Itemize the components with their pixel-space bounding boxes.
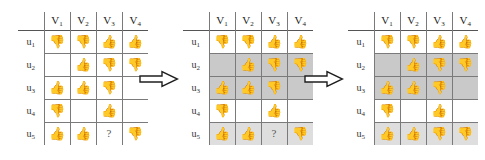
cell-u1-v1[interactable]: 👎 bbox=[209, 30, 235, 53]
thumbs-down-icon: 👎 bbox=[49, 35, 65, 48]
cell-u2-v1[interactable] bbox=[44, 53, 70, 76]
row-header-u1: u1 bbox=[18, 30, 44, 53]
cell-u5-v2[interactable]: 👍 bbox=[400, 122, 426, 145]
cell-u5-v1[interactable]: 👍 bbox=[209, 122, 235, 145]
table-row: u4👎👍 bbox=[18, 99, 148, 122]
cell-u5-v4[interactable]: 👎 bbox=[122, 122, 148, 145]
thumbs-down-icon: 👎 bbox=[75, 35, 91, 48]
cell-u4-v4[interactable] bbox=[122, 99, 148, 122]
header-row: V1V2V3V4 bbox=[18, 12, 148, 30]
cell-u4-v1[interactable]: 👎 bbox=[374, 99, 400, 122]
row-header-u5: u5 bbox=[348, 122, 374, 145]
cell-u3-v3[interactable]: 👎 bbox=[96, 76, 122, 99]
cell-u5-v1[interactable]: 👍 bbox=[374, 122, 400, 145]
cell-u4-v2[interactable] bbox=[70, 99, 96, 122]
table-row: u2👍👎👎 bbox=[348, 53, 478, 76]
thumbs-down-icon: 👎 bbox=[240, 35, 256, 48]
table-corner-cell bbox=[18, 12, 44, 30]
table-row: u3👍👍👎 bbox=[348, 76, 478, 99]
cell-u3-v1[interactable]: 👍 bbox=[209, 76, 235, 99]
thumbs-up-icon: 👍 bbox=[75, 81, 91, 94]
column-header-v1: V1 bbox=[374, 12, 400, 30]
cell-u4-v1[interactable]: 👎 bbox=[209, 99, 235, 122]
cell-u4-v2[interactable] bbox=[235, 99, 261, 122]
cell-u1-v3[interactable]: 👍 bbox=[96, 30, 122, 53]
row-header-u3: u3 bbox=[348, 76, 374, 99]
cell-u1-v4[interactable]: 👍 bbox=[452, 30, 478, 53]
column-header-v2: V2 bbox=[70, 12, 96, 30]
cell-u2-v1[interactable] bbox=[209, 53, 235, 76]
right-arrow-icon-2 bbox=[304, 70, 344, 88]
table-row: u3👍👍👎 bbox=[18, 76, 148, 99]
cell-u2-v1[interactable] bbox=[374, 53, 400, 76]
cell-u5-v3[interactable]: ? bbox=[261, 122, 287, 145]
cell-u4-v4[interactable] bbox=[452, 99, 478, 122]
cell-u4-v2[interactable] bbox=[400, 99, 426, 122]
thumbs-up-icon: 👍 bbox=[75, 58, 91, 71]
cell-u1-v3[interactable]: 👍 bbox=[261, 30, 287, 53]
cell-u5-v1[interactable]: 👍 bbox=[44, 122, 70, 145]
cell-u2-v2[interactable]: 👍 bbox=[70, 53, 96, 76]
thumbs-up-icon: 👍 bbox=[405, 81, 421, 94]
cell-u4-v3[interactable]: 👍 bbox=[96, 99, 122, 122]
cell-u1-v2[interactable]: 👎 bbox=[235, 30, 261, 53]
cell-u5-v4[interactable]: 👎 bbox=[287, 122, 313, 145]
cell-u3-v1[interactable]: 👍 bbox=[374, 76, 400, 99]
thumbs-up-icon: 👍 bbox=[214, 127, 230, 140]
table-row: u1👎👎👍👍 bbox=[18, 30, 148, 53]
cell-u2-v3[interactable]: 👎 bbox=[96, 53, 122, 76]
cell-u2-v3[interactable]: 👎 bbox=[261, 53, 287, 76]
cell-u3-v2[interactable]: 👍 bbox=[235, 76, 261, 99]
cell-u3-v3[interactable]: 👎 bbox=[426, 76, 452, 99]
cell-u4-v3[interactable]: 👍 bbox=[261, 99, 287, 122]
table-row: u5👍👍?👎 bbox=[183, 122, 313, 145]
right-arrow-icon-1 bbox=[139, 70, 179, 88]
cell-u2-v4[interactable]: 👎 bbox=[452, 53, 478, 76]
cell-u3-v4[interactable] bbox=[452, 76, 478, 99]
column-header-v3: V3 bbox=[96, 12, 122, 30]
cell-u3-v2[interactable]: 👍 bbox=[70, 76, 96, 99]
column-header-v2: V2 bbox=[235, 12, 261, 30]
cell-u3-v2[interactable]: 👍 bbox=[400, 76, 426, 99]
cell-u1-v4[interactable]: 👍 bbox=[122, 30, 148, 53]
cell-u5-v2[interactable]: 👍 bbox=[70, 122, 96, 145]
table-row: u4👎👍 bbox=[348, 99, 478, 122]
cell-u5-v2[interactable]: 👍 bbox=[235, 122, 261, 145]
cell-u5-v3[interactable]: 👎 bbox=[426, 122, 452, 145]
table-row: u4👎👍 bbox=[183, 99, 313, 122]
table-row: u2👍👎👎 bbox=[183, 53, 313, 76]
cell-u2-v3[interactable]: 👎 bbox=[426, 53, 452, 76]
thumbs-up-icon: 👍 bbox=[101, 35, 117, 48]
cell-u5-v3[interactable]: ? bbox=[96, 122, 122, 145]
matrix-panel-neighbors: V1V2V3V4 u1👎👎👍👍u2👍👎👎u3👍👍👎u4👎👍u5👍👍?👎 bbox=[183, 12, 313, 145]
cell-u2-v2[interactable]: 👍 bbox=[235, 53, 261, 76]
cell-u3-v3[interactable]: 👎 bbox=[261, 76, 287, 99]
thumbs-down-icon: 👎 bbox=[379, 35, 395, 48]
column-header-v3: V3 bbox=[261, 12, 287, 30]
thumbs-down-icon: 👎 bbox=[266, 58, 282, 71]
cell-u1-v3[interactable]: 👍 bbox=[426, 30, 452, 53]
thumbs-down-icon: 👎 bbox=[457, 127, 473, 140]
cell-u5-v4[interactable]: 👎 bbox=[452, 122, 478, 145]
cell-u1-v2[interactable]: 👎 bbox=[400, 30, 426, 53]
row-header-u1: u1 bbox=[348, 30, 374, 53]
row-header-u5: u5 bbox=[18, 122, 44, 145]
thumbs-down-icon: 👎 bbox=[379, 104, 395, 117]
thumbs-up-icon: 👍 bbox=[266, 35, 282, 48]
header-row: V1V2V3V4 bbox=[183, 12, 313, 30]
unknown-rating-icon: ? bbox=[107, 128, 112, 139]
cell-u4-v3[interactable]: 👍 bbox=[426, 99, 452, 122]
cell-u4-v1[interactable]: 👎 bbox=[44, 99, 70, 122]
cell-u1-v4[interactable]: 👍 bbox=[287, 30, 313, 53]
cell-u2-v2[interactable]: 👍 bbox=[400, 53, 426, 76]
cell-u1-v1[interactable]: 👎 bbox=[44, 30, 70, 53]
diagram-canvas: V1V2V3V4 u1👎👎👍👍u2👍👎👎u3👍👍👎u4👎👍u5👍👍?👎 V1V2… bbox=[0, 0, 485, 160]
cell-u1-v1[interactable]: 👎 bbox=[374, 30, 400, 53]
cell-u3-v1[interactable]: 👍 bbox=[44, 76, 70, 99]
thumbs-down-icon: 👎 bbox=[405, 35, 421, 48]
table-header: V1V2V3V4 bbox=[18, 12, 148, 30]
thumbs-down-icon: 👎 bbox=[214, 104, 230, 117]
cell-u4-v4[interactable] bbox=[287, 99, 313, 122]
matrix-panel-predicted: V1V2V3V4 u1👎👎👍👍u2👍👎👎u3👍👍👎u4👎👍u5👍👍👎👎 bbox=[348, 12, 478, 145]
cell-u1-v2[interactable]: 👎 bbox=[70, 30, 96, 53]
